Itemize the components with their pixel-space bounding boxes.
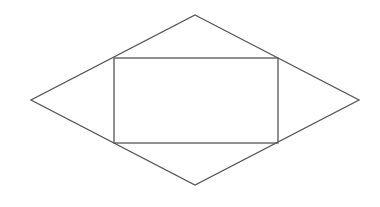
rhombus-shape (31, 15, 359, 185)
inscribed-rectangle (114, 58, 278, 143)
diagram-canvas (0, 0, 380, 207)
